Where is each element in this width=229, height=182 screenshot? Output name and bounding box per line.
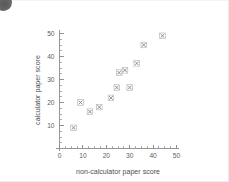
y-axis-tick-label: 30: [47, 76, 55, 83]
x-axis-title: non-calculator paper score: [76, 168, 160, 176]
data-point: [134, 61, 140, 67]
y-axis-tick-label: 10: [47, 122, 55, 129]
y-axis-title: calculator paper score: [34, 55, 42, 125]
y-axis-tick-label: 20: [47, 99, 55, 106]
y-axis-tick-label: 50: [47, 30, 55, 37]
data-point: [114, 85, 120, 91]
x-axis-tick-label: 40: [149, 152, 157, 159]
x-axis-tick-labels: 01020304050: [58, 152, 181, 159]
y-axis-tick-label: 40: [47, 53, 55, 60]
scatter-chart: 01020304050 1020304050 non-calculator pa…: [0, 0, 229, 182]
x-axis-minor-ticks: [60, 146, 177, 148]
data-point: [96, 104, 102, 110]
data-point: [160, 33, 166, 39]
data-point: [108, 95, 114, 101]
scatter-chart-canvas: 01020304050 1020304050 non-calculator pa…: [0, 0, 229, 182]
scatter-data-points: [71, 33, 166, 131]
data-point: [122, 68, 128, 74]
y-axis-minor-ticks: [60, 34, 62, 149]
data-point: [71, 125, 77, 131]
scatter-plot-page: 01020304050 1020304050 non-calculator pa…: [0, 0, 229, 182]
x-axis-tick-label: 50: [173, 152, 181, 159]
x-axis-tick-label: 0: [58, 152, 62, 159]
data-point: [78, 100, 84, 106]
data-point: [127, 85, 133, 91]
data-point: [141, 42, 147, 48]
x-axis-tick-label: 20: [103, 152, 111, 159]
data-point: [116, 70, 122, 76]
data-point: [87, 109, 93, 115]
x-axis-tick-label: 30: [126, 152, 134, 159]
y-axis-major-ticks: [60, 34, 64, 126]
y-axis-tick-labels: 1020304050: [47, 30, 55, 129]
x-axis-tick-label: 10: [79, 152, 87, 159]
